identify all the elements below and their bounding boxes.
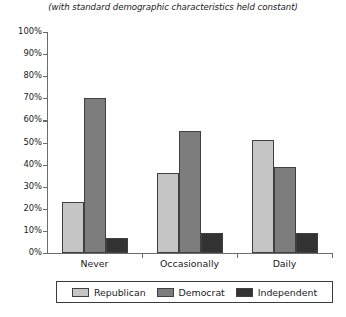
- plot-area: 0%10%20%30%40%50%60%70%80%90%100% NeverO…: [47, 32, 332, 253]
- legend-label: Independent: [258, 287, 317, 298]
- bar: [62, 202, 84, 253]
- legend-swatch-icon: [236, 288, 253, 297]
- legend-swatch-icon: [157, 288, 174, 297]
- y-tick-mark: [43, 120, 47, 121]
- x-tick-mark: [237, 253, 238, 258]
- x-category-label: Never: [81, 258, 109, 269]
- x-category-label: Occasionally: [160, 258, 219, 269]
- bar: [274, 167, 296, 253]
- legend-label: Republican: [94, 287, 146, 298]
- x-tick-mark: [142, 253, 143, 258]
- y-tick-label: 100%: [18, 26, 42, 36]
- y-tick-mark: [43, 253, 47, 254]
- x-category-label: Daily: [273, 258, 297, 269]
- y-tick-mark: [43, 165, 47, 166]
- bar: [296, 233, 318, 253]
- y-tick-label: 20%: [23, 203, 42, 213]
- y-tick-label: 50%: [23, 137, 42, 147]
- y-tick-mark: [43, 76, 47, 77]
- y-tick-label: 70%: [23, 92, 42, 102]
- y-tick-label: 90%: [23, 48, 42, 58]
- y-tick-mark: [43, 54, 47, 55]
- legend-item[interactable]: Democrat: [157, 287, 225, 298]
- legend-swatch-icon: [72, 288, 89, 297]
- y-tick-mark: [43, 231, 47, 232]
- y-tick-mark: [43, 98, 47, 99]
- y-tick-mark: [43, 143, 47, 144]
- legend-item[interactable]: Republican: [72, 287, 146, 298]
- legend-item[interactable]: Independent: [236, 287, 317, 298]
- y-tick-label: 30%: [23, 181, 42, 191]
- legend-label: Democrat: [179, 287, 225, 298]
- y-tick-mark: [43, 187, 47, 188]
- y-tick-mark: [43, 209, 47, 210]
- y-axis-line: [47, 32, 48, 254]
- chart-subtitle: (with standard demographic characteristi…: [0, 2, 346, 12]
- chart-legend: RepublicanDemocratIndependent: [56, 281, 333, 303]
- chart-figure: (with standard demographic characteristi…: [0, 0, 346, 317]
- y-tick-label: 60%: [23, 114, 42, 124]
- bar: [157, 173, 179, 253]
- bar: [106, 238, 128, 253]
- bar: [179, 131, 201, 253]
- y-tick-label: 0%: [29, 247, 42, 257]
- y-tick-mark: [43, 32, 47, 33]
- bar: [252, 140, 274, 253]
- x-tick-mark: [332, 253, 333, 258]
- bar: [201, 233, 223, 253]
- x-axis-line: [47, 253, 332, 254]
- y-tick-label: 80%: [23, 70, 42, 80]
- y-tick-label: 10%: [23, 225, 42, 235]
- y-tick-label: 40%: [23, 159, 42, 169]
- bar: [84, 98, 106, 253]
